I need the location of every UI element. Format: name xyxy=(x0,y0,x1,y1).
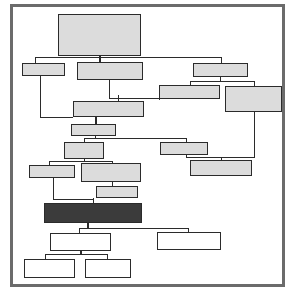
seg-right4-bus xyxy=(186,157,221,158)
process-box-left-2-label xyxy=(30,166,74,177)
seg-right1-bus xyxy=(190,81,255,82)
process-box-output-4-label xyxy=(86,260,130,277)
seg-center2-stem-down xyxy=(95,117,97,124)
process-box-output-2-label xyxy=(158,233,220,249)
process-box-center-3[interactable] xyxy=(71,124,116,136)
process-box-left-2[interactable] xyxy=(29,165,75,178)
process-box-output-3-label xyxy=(25,260,74,277)
process-box-center-5-label xyxy=(82,164,140,181)
process-box-right-2-label xyxy=(160,86,219,98)
seg-right2-to-center2 xyxy=(118,98,160,99)
seg-left2-to-highlight xyxy=(53,199,94,200)
process-box-right-4-label xyxy=(161,143,207,154)
seg-output1-bus xyxy=(45,254,108,255)
process-box-center-5[interactable] xyxy=(81,163,141,182)
seg-root-bus-horizontal xyxy=(35,57,222,58)
seg-right3-down-long xyxy=(254,112,255,157)
seg-left2-down-long xyxy=(53,178,54,200)
seg-right2-down xyxy=(159,99,160,100)
process-box-center-3-label xyxy=(72,125,115,135)
process-box-highlight-label xyxy=(45,204,141,222)
process-box-left-1[interactable] xyxy=(22,63,65,76)
process-box-right-5[interactable] xyxy=(190,160,252,176)
process-box-right-3-label xyxy=(226,87,281,111)
process-box-right-1-label xyxy=(194,64,247,76)
diagram-canvas xyxy=(0,0,302,298)
process-box-output-1[interactable] xyxy=(50,233,111,251)
process-box-right-5-label xyxy=(191,161,251,175)
process-box-right-3[interactable] xyxy=(225,86,282,112)
seg-center3-bus xyxy=(84,138,187,139)
process-box-output-1-label xyxy=(51,234,110,250)
process-box-right-1[interactable] xyxy=(193,63,248,77)
seg-right3-to-right5 xyxy=(221,157,255,158)
process-box-output-4[interactable] xyxy=(85,259,131,278)
process-box-center-2[interactable] xyxy=(73,101,144,117)
process-box-left-1-label xyxy=(23,64,64,75)
seg-center1-stem-down xyxy=(109,80,110,98)
process-box-center-4[interactable] xyxy=(64,142,104,159)
process-box-root[interactable] xyxy=(58,14,141,56)
seg-left1-down-long xyxy=(40,76,41,118)
seg-center4-bus xyxy=(49,161,113,162)
process-box-center-6[interactable] xyxy=(96,186,138,198)
process-box-center-4-label xyxy=(65,143,103,158)
process-box-output-2[interactable] xyxy=(157,232,221,250)
process-box-center-1[interactable] xyxy=(77,62,143,80)
process-box-right-4[interactable] xyxy=(160,142,208,155)
process-box-center-2-label xyxy=(74,102,143,116)
process-box-right-2[interactable] xyxy=(159,85,220,99)
seg-left1-to-center2 xyxy=(40,117,73,118)
process-box-highlight[interactable] xyxy=(44,203,142,223)
seg-highlight-bus xyxy=(79,228,189,229)
process-box-output-3[interactable] xyxy=(24,259,75,278)
process-box-center-6-label xyxy=(97,187,137,197)
process-box-root-label xyxy=(59,15,140,55)
process-box-center-1-label xyxy=(78,63,142,79)
